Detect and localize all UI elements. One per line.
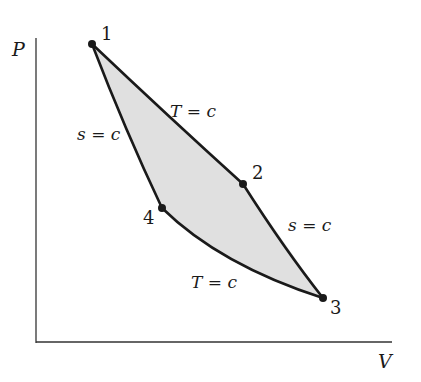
state-label-1: 1 [101,23,112,44]
state-label-4: 4 [143,207,154,228]
process-label-3-4: T = c [191,272,237,292]
process-label-1-2: T = c [170,101,216,121]
process-label-2-3: s = c [288,215,332,235]
state-point-3 [319,294,327,302]
state-point-1 [88,40,96,48]
state-point-2 [239,180,247,188]
state-label-2: 2 [252,162,263,183]
y-axis-label: P [11,38,26,60]
pv-diagram: P V 1 2 3 4 T = c s = c T = c s = c [0,0,421,382]
x-axis-label: V [378,350,394,372]
state-label-3: 3 [330,297,341,318]
process-label-4-1: s = c [77,124,121,144]
state-point-4 [158,204,166,212]
cycle-area [92,44,323,298]
